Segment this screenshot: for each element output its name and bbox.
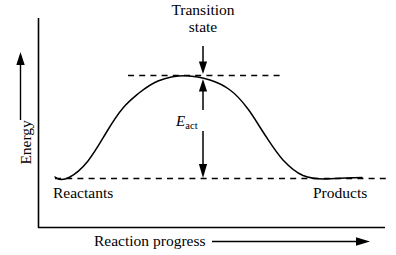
transition-state-pointer-arrow bbox=[199, 46, 207, 74]
transition-state-label-line1: Transition bbox=[152, 2, 254, 19]
x-axis-label: Reaction progress bbox=[94, 233, 205, 250]
activation-energy-symbol: E bbox=[176, 113, 185, 129]
y-axis-label: Energy bbox=[18, 107, 35, 177]
diagram-canvas bbox=[0, 0, 396, 255]
products-label: Products bbox=[313, 185, 367, 202]
activation-energy-label: Eact bbox=[176, 113, 198, 131]
transition-state-label: Transition state bbox=[152, 2, 254, 35]
activation-energy-arrow bbox=[199, 79, 207, 178]
activation-energy-subscript: act bbox=[185, 120, 198, 131]
reaction-energy-diagram: Transition state Eact Reactants Products… bbox=[0, 0, 396, 255]
energy-profile-curve bbox=[55, 76, 362, 180]
transition-state-label-line2: state bbox=[152, 19, 254, 36]
reaction-progress-arrow bbox=[212, 237, 370, 246]
reactants-label: Reactants bbox=[53, 185, 113, 202]
